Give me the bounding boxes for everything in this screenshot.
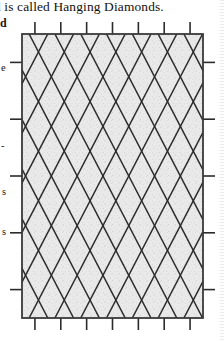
hanging-diamonds-svg: [0, 14, 224, 334]
scan-gutter: [220, 0, 224, 341]
hanging-diamonds-figure: [0, 14, 224, 334]
figure-fill: [22, 34, 203, 318]
scanned-page: d is called Hanging Diamonds. d e - s s: [0, 0, 224, 341]
figure-fill-rect: [22, 34, 203, 318]
